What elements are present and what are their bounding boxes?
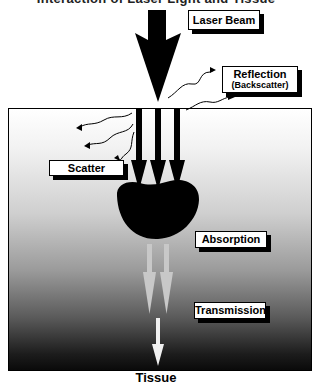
label-backscatter-text: (Backscatter) — [223, 81, 297, 90]
label-laser-beam-text: Laser Beam — [193, 14, 255, 26]
absorption-blob-icon — [117, 180, 199, 239]
tissue-caption: Tissue — [0, 370, 312, 385]
transmission-arrows — [143, 244, 173, 314]
reflection-arrowhead-2 — [228, 94, 235, 100]
label-absorption: Absorption — [195, 231, 267, 248]
label-reflection-text: Reflection — [233, 68, 286, 80]
scatter-wave-1 — [80, 113, 132, 127]
label-reflection: Reflection (Backscatter) — [222, 66, 298, 93]
scatter-wave-2 — [88, 124, 133, 145]
scatter-wave-3 — [118, 132, 134, 160]
deep-transmission-arrow — [152, 318, 164, 366]
label-scatter: Scatter — [49, 160, 124, 176]
label-transmission-text: Transmission — [195, 304, 266, 316]
laser-beam-arrow — [135, 10, 181, 102]
label-absorption-text: Absorption — [202, 233, 261, 245]
scatter-arrowhead-2 — [84, 142, 90, 149]
label-laser-beam: Laser Beam — [188, 10, 260, 30]
reflection-wave-2 — [186, 97, 230, 110]
label-scatter-text: Scatter — [68, 162, 105, 174]
reflection-arrowhead-1 — [210, 67, 216, 73]
reflection-wave-1 — [168, 70, 214, 98]
diagram-graphics — [0, 0, 312, 385]
incident-arrows — [131, 109, 185, 190]
scatter-arrowhead-1 — [76, 124, 82, 131]
label-transmission: Transmission — [194, 302, 266, 319]
